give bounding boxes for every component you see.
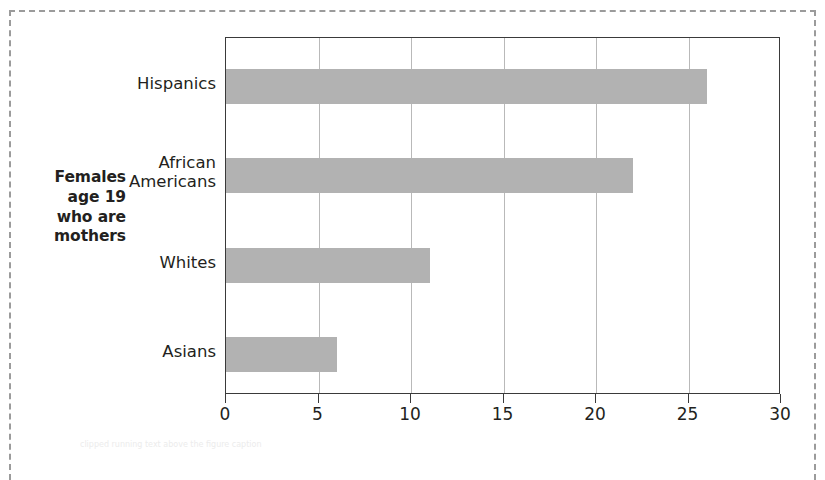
- x-tick-label-30: 30: [769, 404, 791, 424]
- x-tick-label-15: 15: [492, 404, 514, 424]
- bar-african-americans: [226, 158, 633, 193]
- category-label-african-americans: AfricanAmericans: [40, 153, 216, 192]
- x-tick-0: [225, 394, 226, 403]
- category-label-line: African: [40, 153, 216, 172]
- x-tick-15: [503, 394, 504, 403]
- category-label-line: Asians: [40, 342, 216, 361]
- plot-area: [225, 37, 780, 394]
- category-label-whites: Whites: [40, 253, 216, 272]
- category-label-line: Whites: [40, 253, 216, 272]
- y-axis-title-line-3: who are: [18, 208, 126, 228]
- bar-asians: [226, 337, 337, 372]
- bar-whites: [226, 248, 430, 283]
- x-tick-25: [688, 394, 689, 403]
- x-tick-10: [410, 394, 411, 403]
- x-tick-5: [318, 394, 319, 403]
- x-tick-label-25: 25: [677, 404, 699, 424]
- x-tick-20: [595, 394, 596, 403]
- x-tick-30: [780, 394, 781, 403]
- caption-ghost-text: clipped running text above the figure ca…: [80, 440, 780, 449]
- x-tick-label-20: 20: [584, 404, 606, 424]
- y-axis-title-line-4: mothers: [18, 227, 126, 247]
- category-label-asians: Asians: [40, 342, 216, 361]
- x-tick-label-0: 0: [220, 404, 231, 424]
- bar-hispanics: [226, 69, 707, 104]
- category-label-line: Hispanics: [40, 74, 216, 93]
- plot-inner: [226, 38, 779, 393]
- x-tick-label-5: 5: [312, 404, 323, 424]
- category-label-line: Americans: [40, 172, 216, 191]
- category-label-hispanics: Hispanics: [40, 74, 216, 93]
- x-tick-label-10: 10: [399, 404, 421, 424]
